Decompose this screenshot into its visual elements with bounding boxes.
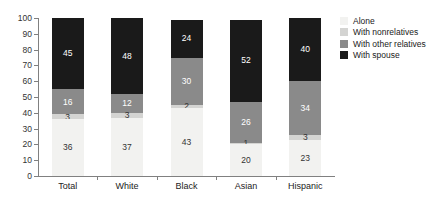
- bar-segment-value-label: 30: [182, 77, 191, 86]
- bar-segment-value-label: 40: [301, 45, 310, 54]
- legend-item-label: With spouse: [353, 51, 400, 60]
- bar-stack: 5226120: [230, 20, 262, 176]
- y-axis-tick-mark: [34, 97, 38, 98]
- bar-segment-value-label: 12: [122, 99, 131, 108]
- legend-swatch-icon: [340, 40, 348, 48]
- y-axis-tick-mark: [34, 176, 38, 177]
- y-axis-tick-label: 70: [23, 61, 32, 70]
- y-axis-tick-label: 20: [23, 140, 32, 149]
- y-axis-tick-label: 10: [23, 156, 32, 165]
- bar-segment[interactable]: 16: [52, 89, 84, 114]
- y-axis-tick-mark: [34, 113, 38, 114]
- bar-segment-value-label: 34: [301, 104, 310, 113]
- legend-swatch-icon: [340, 17, 348, 25]
- bar-segment-value-label: 16: [63, 98, 72, 107]
- y-axis-tick-label: 50: [23, 93, 32, 102]
- x-axis-category-label: Asian: [216, 182, 275, 191]
- legend-item[interactable]: With nonrelatives: [340, 27, 426, 39]
- y-axis-tick-label: 60: [23, 77, 32, 86]
- bar-segment-value-label: 26: [241, 118, 250, 127]
- x-axis-category-label: White: [97, 182, 156, 191]
- bar-segment[interactable]: 43: [171, 108, 203, 176]
- legend-swatch-icon: [340, 28, 348, 36]
- legend-item[interactable]: With other relatives: [340, 38, 426, 50]
- bar-group[interactable]: 2430243: [171, 18, 203, 176]
- x-axis-category-label: Total: [38, 182, 97, 191]
- y-axis-tick-mark: [34, 160, 38, 161]
- bar-segment-value-label: 48: [122, 52, 131, 61]
- y-axis-tick-mark: [34, 81, 38, 82]
- bar-segment[interactable]: 30: [171, 58, 203, 105]
- x-axis-category-label: Hispanic: [276, 182, 335, 191]
- legend-swatch-icon: [340, 51, 348, 59]
- x-axis-tick-mark: [157, 176, 158, 180]
- x-axis-line: [38, 176, 335, 177]
- bar-segment-value-label: 20: [241, 156, 250, 165]
- bar-segment[interactable]: 52: [230, 20, 262, 102]
- bar-stack: 4812337: [111, 18, 143, 176]
- bar-group[interactable]: 4034323: [289, 18, 321, 176]
- x-axis-tick-mark: [276, 176, 277, 180]
- y-axis-tick-mark: [34, 65, 38, 66]
- bar-group[interactable]: 4812337: [111, 18, 143, 176]
- x-axis-category-label: Black: [157, 182, 216, 191]
- y-axis-tick-label: 0: [27, 172, 32, 181]
- legend-item[interactable]: Alone: [340, 15, 426, 27]
- plot-area: 0102030405060708090100 45163364812337243…: [38, 18, 335, 176]
- legend-item-label: Alone: [353, 17, 375, 26]
- bar-segment[interactable]: 36: [52, 119, 84, 176]
- y-axis-tick-mark: [34, 34, 38, 35]
- chart-legend: AloneWith nonrelativesWith other relativ…: [340, 15, 426, 61]
- bar-segment-value-label: 45: [63, 49, 72, 58]
- bar-segment[interactable]: 34: [289, 81, 321, 135]
- bar-segment[interactable]: 40: [289, 18, 321, 81]
- bar-segment[interactable]: 12: [111, 94, 143, 113]
- bar-segment[interactable]: 26: [230, 102, 262, 143]
- bar-segment-value-label: 37: [122, 143, 131, 152]
- legend-item-label: With other relatives: [353, 40, 426, 49]
- y-axis-tick-label: 40: [23, 109, 32, 118]
- bar-segment[interactable]: 20: [230, 144, 262, 176]
- y-axis-tick-label: 100: [18, 14, 32, 23]
- bar-stack: 4516336: [52, 18, 84, 176]
- bar-segment-value-label: 52: [241, 56, 250, 65]
- y-axis-tick-label: 80: [23, 45, 32, 54]
- bar-stack: 2430243: [171, 20, 203, 176]
- bar-segment-value-label: 23: [301, 154, 310, 163]
- bar-stack: 4034323: [289, 18, 321, 176]
- y-axis-tick-label: 90: [23, 30, 32, 39]
- x-axis-tick-mark: [216, 176, 217, 180]
- y-axis-tick-mark: [34, 18, 38, 19]
- y-axis-tick-mark: [34, 50, 38, 51]
- y-axis-tick-mark: [34, 129, 38, 130]
- bar-group[interactable]: 4516336: [52, 18, 84, 176]
- bar-group[interactable]: 5226120: [230, 18, 262, 176]
- legend-item[interactable]: With spouse: [340, 50, 426, 62]
- x-axis-tick-mark: [97, 176, 98, 180]
- y-axis-tick-label: 30: [23, 124, 32, 133]
- bar-segment[interactable]: 45: [52, 18, 84, 89]
- bar-segment-value-label: 24: [182, 34, 191, 43]
- y-axis-tick-mark: [34, 144, 38, 145]
- legend-item-label: With nonrelatives: [353, 28, 418, 37]
- bar-segment-value-label: 36: [63, 143, 72, 152]
- bar-segment[interactable]: 24: [171, 20, 203, 58]
- bar-segment[interactable]: 37: [111, 118, 143, 176]
- bar-segment-value-label: 43: [182, 138, 191, 147]
- bar-segment[interactable]: 48: [111, 18, 143, 94]
- bar-segment[interactable]: 23: [289, 140, 321, 176]
- stacked-bar-chart: 0102030405060708090100 45163364812337243…: [0, 0, 443, 211]
